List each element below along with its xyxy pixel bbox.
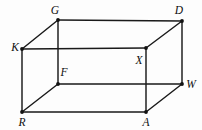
prism-edge-f-r bbox=[22, 84, 58, 112]
prism-svg: GDKXFWRA bbox=[0, 0, 202, 130]
vertex-label-a: A bbox=[141, 116, 150, 128]
vertex-label-f: F bbox=[59, 66, 68, 78]
prism-vertex-labels: GDKXFWRA bbox=[10, 4, 197, 128]
prism-edge-k-x bbox=[22, 48, 146, 49]
vertex-dot-k bbox=[20, 47, 24, 51]
prism-vertex-dots bbox=[20, 18, 184, 114]
vertex-dot-d bbox=[180, 19, 184, 23]
prism-edges bbox=[22, 20, 182, 112]
vertex-dot-a bbox=[144, 110, 148, 114]
vertex-dot-g bbox=[56, 18, 60, 22]
prism-edge-d-x bbox=[146, 21, 182, 48]
prism-figure: GDKXFWRA bbox=[0, 0, 202, 130]
vertex-dot-r bbox=[20, 110, 24, 114]
vertex-label-r: R bbox=[17, 116, 25, 128]
vertex-dot-f bbox=[56, 82, 60, 86]
prism-edge-a-w bbox=[146, 84, 182, 112]
vertex-label-x: X bbox=[134, 54, 143, 66]
vertex-label-k: K bbox=[10, 41, 20, 53]
vertex-label-w: W bbox=[186, 78, 197, 90]
vertex-dot-w bbox=[180, 82, 184, 86]
vertex-dot-x bbox=[144, 46, 148, 50]
vertex-label-g: G bbox=[51, 4, 60, 16]
prism-edge-g-k bbox=[22, 20, 58, 49]
vertex-label-d: D bbox=[174, 4, 184, 16]
prism-edge-g-d bbox=[58, 20, 182, 21]
